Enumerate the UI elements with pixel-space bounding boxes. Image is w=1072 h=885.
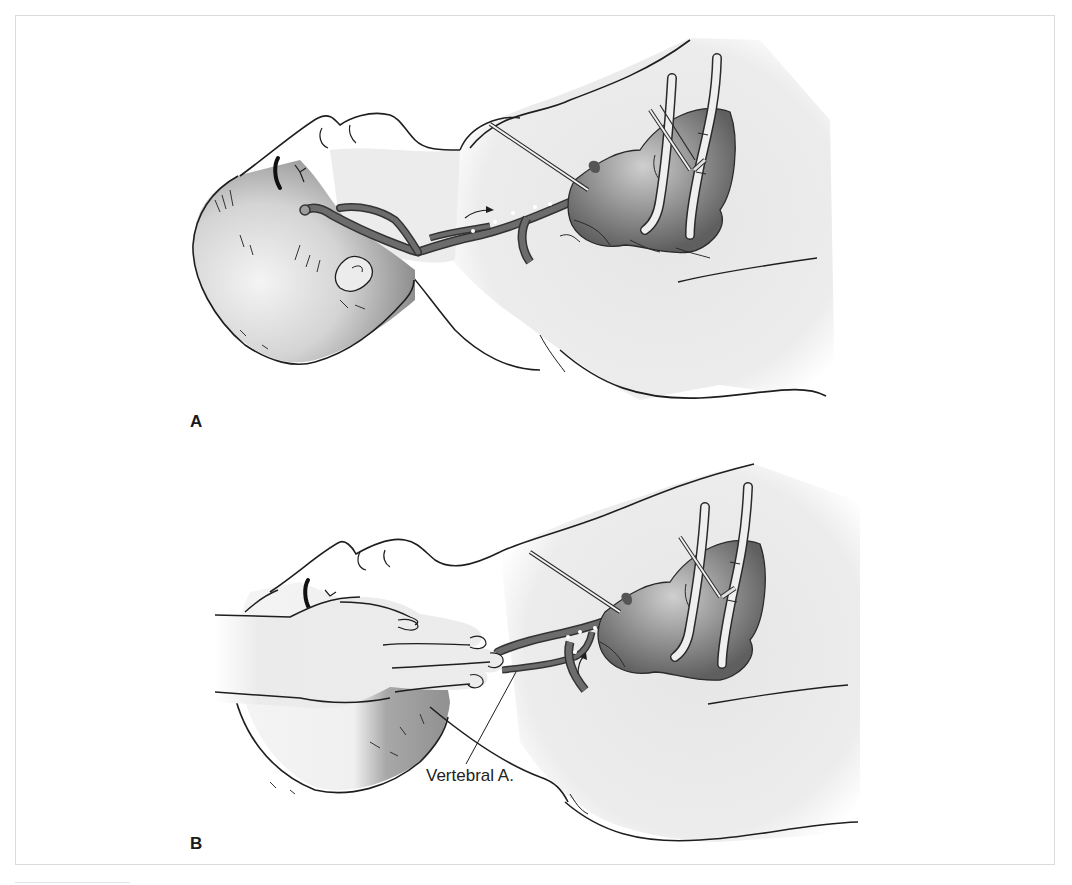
panel-b: Vertebral A. B bbox=[0, 442, 1072, 885]
panel-label-b: B bbox=[190, 834, 202, 854]
panel-a-illustration bbox=[0, 0, 1072, 442]
panel-a: A bbox=[0, 0, 1072, 442]
footer-rule bbox=[15, 882, 130, 883]
panel-b-illustration bbox=[0, 442, 1072, 885]
panel-label-a: A bbox=[190, 412, 202, 432]
callout-vertebral-artery: Vertebral A. bbox=[426, 766, 514, 786]
